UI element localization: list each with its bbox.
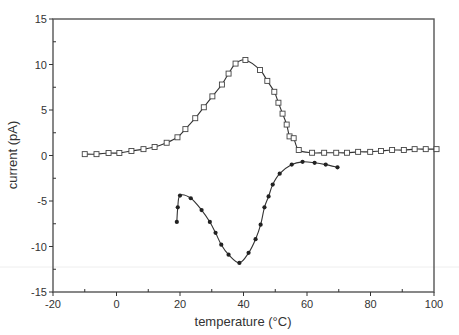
data-point-square [82,152,87,157]
data-point-dot [219,243,223,247]
data-point-dot [313,161,317,165]
y-axis-label: current (pA) [5,121,20,190]
data-point-square [117,151,122,156]
data-point-square [296,148,301,153]
x-tick-label: 40 [237,298,249,310]
data-point-dot [300,160,304,164]
data-point-square [94,152,99,157]
data-point-square [434,147,439,152]
data-point-square [284,122,289,127]
data-point-dot [189,196,193,200]
x-axis-label: temperature (°C) [195,314,292,329]
y-tick-label: 5 [41,104,47,116]
data-point-square [226,71,231,76]
x-tick-label: -20 [45,298,61,310]
data-point-dot [271,183,275,187]
data-point-square [106,151,111,156]
data-point-square [219,82,224,87]
x-tick-label: 20 [174,298,186,310]
x-tick-label: 80 [364,298,376,310]
data-point-square [310,150,315,155]
y-tick-label: 10 [35,59,47,71]
data-point-square [152,145,157,150]
data-point-square [423,147,428,152]
chart-canvas: -20020406080100-15-10-5051015 temperatur… [0,0,459,335]
x-tick-label: 100 [425,298,443,310]
data-point-square [368,149,373,154]
data-point-square [276,100,281,105]
data-point-dot [262,205,266,209]
y-tick-label: 0 [41,150,47,162]
data-point-square [272,89,277,94]
data-point-dot [253,237,257,241]
data-point-dot [226,253,230,257]
data-point-square [356,149,361,154]
data-point-dot [266,194,270,198]
data-point-square [280,111,285,116]
data-point-dot [246,251,250,255]
data-point-dot [199,208,203,212]
data-point-square [265,78,270,83]
data-point-square [345,150,350,155]
data-point-square [164,140,169,145]
x-tick-label: 0 [113,298,119,310]
data-point-square [401,148,406,153]
data-point-square [210,94,215,99]
data-point-square [390,148,395,153]
data-point-square [378,148,383,153]
y-tick-label: -15 [31,286,47,298]
data-point-dot [178,193,182,197]
data-point-square [233,61,238,66]
data-point-square [291,136,296,141]
data-point-dot [324,163,328,167]
data-point-square [258,67,263,72]
x-tick-label: 60 [301,298,313,310]
chart: -20020406080100-15-10-5051015 temperatur… [0,0,459,335]
data-point-square [193,116,198,121]
data-point-dot [237,261,241,265]
y-tick-label: -10 [31,241,47,253]
data-point-square [129,148,134,153]
data-point-square [412,147,417,152]
y-tick-label: 15 [35,13,47,25]
data-point-square [322,150,327,155]
data-point-dot [259,223,263,227]
data-point-dot [290,163,294,167]
data-point-dot [278,172,282,176]
data-point-square [183,127,188,132]
data-point-square [334,150,339,155]
data-point-dot [335,165,339,169]
data-point-square [201,105,206,110]
data-point-square [141,147,146,152]
y-tick-label: -5 [37,195,47,207]
data-point-dot [208,220,212,224]
data-point-square [175,135,180,140]
data-point-dot [213,231,217,235]
data-point-square [243,57,248,62]
data-point-dot [176,205,180,209]
data-point-dot [175,220,179,224]
